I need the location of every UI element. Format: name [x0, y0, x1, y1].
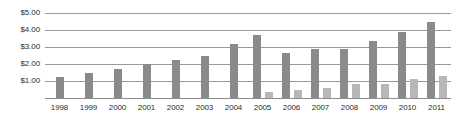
bar-group: [132, 8, 161, 98]
x-axis-tick-label: 2003: [196, 103, 213, 113]
y-axis-tick-label: $3.00: [20, 43, 40, 51]
x-axis-tick-label: 2005: [254, 103, 271, 113]
bar-group: [190, 8, 219, 98]
bar-group: [248, 8, 277, 98]
x-axis-tick-label: 2001: [138, 103, 155, 113]
bar-series-1: [253, 35, 261, 98]
bar-group: [103, 8, 132, 98]
bar-series-1: [311, 49, 319, 98]
y-axis-tick-label: $1.00: [20, 77, 40, 85]
y-axis-tick-label: $4.00: [20, 26, 40, 34]
bar-series-1: [143, 64, 151, 98]
x-axis-tick-label: 1999: [80, 103, 97, 113]
bar-series-1: [282, 53, 290, 98]
bar-series-2: [439, 76, 447, 98]
bar-group: [422, 8, 451, 98]
x-axis-tick-label: 2011: [428, 103, 445, 113]
bar-series-2: [294, 90, 302, 98]
bar-group: [45, 8, 74, 98]
bar-series-1: [398, 32, 406, 98]
bar-series-1: [427, 22, 435, 98]
bar-series-2: [323, 88, 331, 98]
x-axis-tick-label: 2008: [341, 103, 358, 113]
bar-group: [393, 8, 422, 98]
x-axis-tick-label: 2006: [283, 103, 300, 113]
bar-group: [306, 8, 335, 98]
x-axis-tick-label: 2009: [370, 103, 387, 113]
bar-series-1: [56, 77, 64, 98]
bar-series-1: [114, 69, 122, 98]
x-axis-tick-label: 2000: [109, 103, 126, 113]
bar-series-1: [340, 49, 348, 98]
bar-chart: $1.00$2.00$3.00$4.00$5.00 19981999200020…: [0, 0, 458, 126]
x-axis-tick-label: 1998: [51, 103, 68, 113]
y-axis-tick-label: $2.00: [20, 60, 40, 68]
bar-series-2: [265, 92, 273, 98]
x-axis-tick-label: 2004: [225, 103, 242, 113]
bar-series-2: [381, 84, 389, 98]
x-axis-labels: 1998199920002001200220032004200520062007…: [45, 103, 451, 123]
x-axis-tick-label: 2007: [312, 103, 329, 113]
bar-series-1: [369, 41, 377, 98]
bar-group: [277, 8, 306, 98]
bar-series-2: [352, 84, 360, 98]
y-axis-tick-label: $5.00: [20, 9, 40, 17]
bar-series-1: [85, 73, 93, 98]
bar-series-1: [201, 56, 209, 98]
bar-group: [219, 8, 248, 98]
y-axis-labels: $1.00$2.00$3.00$4.00$5.00: [0, 0, 43, 126]
bar-series-1: [230, 44, 238, 98]
bar-series-2: [410, 79, 418, 98]
bar-group: [335, 8, 364, 98]
bar-series-1: [172, 60, 180, 98]
bar-group: [74, 8, 103, 98]
bar-group: [364, 8, 393, 98]
bar-group: [161, 8, 190, 98]
x-axis-tick-label: 2002: [167, 103, 184, 113]
x-axis-tick-label: 2010: [399, 103, 416, 113]
